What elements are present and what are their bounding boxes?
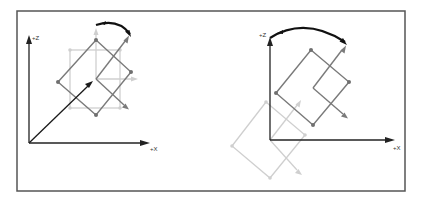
rotation-arc (96, 23, 130, 34)
rotation-diagram: +Z +X (0, 0, 422, 201)
x-axis-label: +X (150, 146, 158, 152)
rotation-arrow-icon (125, 30, 131, 37)
ghost-right-arrow-icon (131, 77, 138, 82)
rotated-up-arrow-icon-right (341, 46, 347, 54)
ghost-up-arrow-icon (94, 28, 99, 35)
position-vector (29, 86, 88, 143)
rotated-object-right (274, 46, 351, 128)
z-axis-label: +Z (32, 35, 40, 41)
rotation-arc-right (270, 28, 345, 42)
left-panel: +Z +X (26, 21, 158, 152)
right-panel: +Z +X (230, 28, 400, 180)
z-axis-arrow-icon-right (267, 37, 273, 46)
z-axis-label-right: +Z (259, 32, 267, 38)
diagram-frame (17, 11, 405, 191)
rotated-object (56, 36, 133, 118)
x-axis-arrow-icon (140, 140, 150, 146)
x-axis-label-right: +X (393, 145, 401, 151)
rotated-square-right (276, 50, 349, 125)
x-axis-arrow-icon-right (385, 137, 395, 143)
